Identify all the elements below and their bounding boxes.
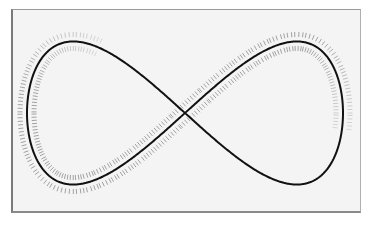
diagram-stage <box>0 0 369 227</box>
figure-eight-curve <box>27 41 343 184</box>
figure-eight-diagram <box>0 0 369 227</box>
